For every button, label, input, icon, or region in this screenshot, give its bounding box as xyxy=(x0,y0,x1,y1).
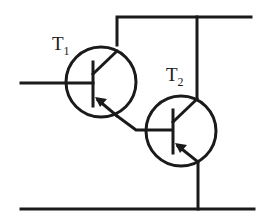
t2-collector-lead xyxy=(173,99,197,122)
t2-label: T2 xyxy=(166,64,184,89)
t1-emitter-to-t2-base-wire xyxy=(117,116,172,130)
t1-collector-lead xyxy=(93,51,117,74)
top-rail-wire xyxy=(117,17,251,45)
darlington-circuit-diagram: T1 T2 xyxy=(0,0,266,223)
t1-label: T1 xyxy=(52,33,70,58)
